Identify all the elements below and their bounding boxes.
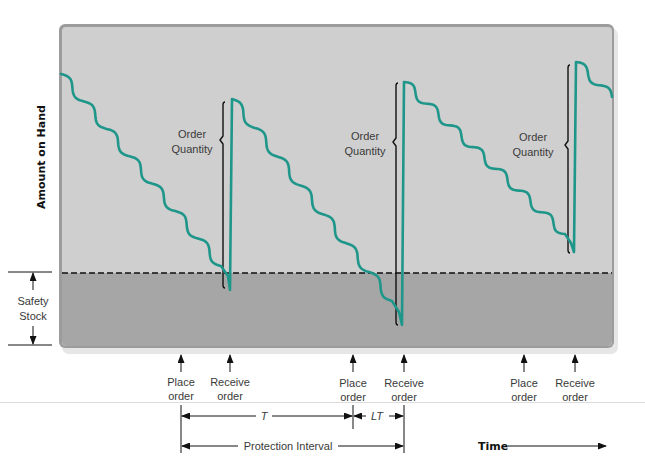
event-place-order-2: Place order (339, 355, 367, 403)
order-quantity-label: Quantity (513, 146, 554, 158)
event-label: order (391, 391, 417, 403)
lead-time-label: LT (371, 410, 384, 422)
order-quantity-label: Quantity (345, 145, 386, 157)
event-receive-order-3: Receive order (555, 355, 595, 403)
event-receive-order-1: Receive order (210, 355, 250, 402)
event-label: order (340, 391, 366, 403)
event-place-order-3: Place order (510, 355, 538, 403)
safety-stock-label: Safety (17, 295, 49, 307)
event-label: order (511, 391, 537, 403)
event-label: Receive (210, 376, 250, 388)
order-quantity-label: Order (351, 130, 379, 142)
event-label: order (168, 390, 194, 402)
interval-annotations: T LT Protection Interval (181, 405, 404, 453)
event-label: Receive (555, 377, 595, 389)
event-place-order-1: Place order (167, 355, 195, 402)
event-label: Place (339, 377, 367, 389)
event-label: Place (167, 376, 195, 388)
event-label: Place (510, 377, 538, 389)
safety-stock-zone (62, 273, 612, 346)
safety-stock-annotation: Safety Stock (8, 272, 52, 345)
safety-stock-label: Stock (19, 310, 47, 322)
review-period-label: T (261, 410, 269, 422)
protection-interval-label: Protection Interval (244, 440, 333, 452)
event-label: order (217, 390, 243, 402)
order-quantity-label: Order (519, 131, 547, 143)
event-label: Receive (384, 377, 424, 389)
event-receive-order-2: Receive order (384, 355, 424, 403)
order-quantity-label: Quantity (172, 143, 213, 155)
inventory-diagram: Order Quantity Order Quantity Order Quan… (0, 0, 645, 476)
x-axis-label: Time (478, 440, 508, 453)
event-label: order (562, 391, 588, 403)
order-quantity-label: Order (178, 128, 206, 140)
y-axis-label: Amount on Hand (35, 105, 48, 209)
